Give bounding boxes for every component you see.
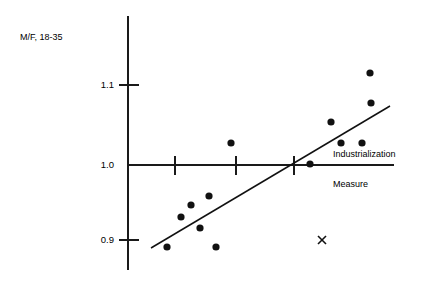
data-point: [337, 139, 344, 146]
data-point: [227, 139, 234, 146]
data-point: [163, 243, 170, 250]
data-point: [358, 139, 365, 146]
data-point: [196, 224, 203, 231]
data-point: [306, 160, 313, 167]
outlier-cross-marker: [318, 236, 326, 244]
scatter-plot-figure: M/F, 18-35 1.1 1.0 0.9 Industrialization…: [0, 0, 424, 281]
data-point: [367, 99, 374, 106]
data-point: [187, 201, 194, 208]
plot-canvas: [0, 0, 424, 281]
y-tick-label-mid: 1.0: [92, 159, 114, 170]
trend-line: [151, 106, 390, 248]
y-tick-label-high: 1.1: [92, 79, 114, 90]
data-point: [212, 243, 219, 250]
x-axis-label-line-1: Industrialization: [333, 149, 396, 159]
x-axis-label-line-2: Measure: [333, 179, 368, 189]
data-point: [177, 213, 184, 220]
data-point: [327, 118, 334, 125]
data-point: [366, 69, 373, 76]
series-label: M/F, 18-35: [20, 32, 63, 42]
y-tick-label-low: 0.9: [92, 234, 114, 245]
data-point: [205, 192, 212, 199]
